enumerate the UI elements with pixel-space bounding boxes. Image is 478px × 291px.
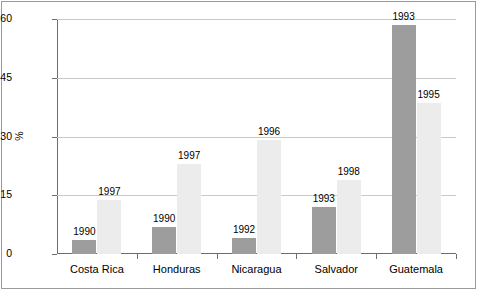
y-axis-tick-label: 15 xyxy=(0,189,12,200)
y-axis-tick-label: 60 xyxy=(0,13,12,24)
bar-value-label: 1997 xyxy=(89,187,129,197)
bar xyxy=(72,240,96,254)
y-axis-tick-label: 30 xyxy=(0,131,12,142)
bar-value-label: 1993 xyxy=(384,12,424,22)
y-axis-tick-label: 0 xyxy=(0,248,12,259)
bar xyxy=(312,207,336,254)
plot-area: 1990199719901997199219961993199819931995 xyxy=(57,19,456,254)
x-axis-tick-mark xyxy=(217,254,218,259)
bar-value-label: 1996 xyxy=(249,127,289,137)
x-axis-tick-mark xyxy=(137,254,138,259)
bar-value-label: 1997 xyxy=(169,151,209,161)
y-axis-title: % xyxy=(13,131,25,140)
y-axis-tick-label: 45 xyxy=(0,72,12,83)
bar xyxy=(417,103,441,254)
bar xyxy=(337,180,361,254)
x-axis-tick-mark xyxy=(456,254,457,259)
bar-value-label: 1998 xyxy=(329,167,369,177)
bar xyxy=(177,164,201,254)
x-axis-tick-mark xyxy=(296,254,297,259)
bar xyxy=(152,227,176,254)
x-axis-tick-mark xyxy=(376,254,377,259)
bar xyxy=(97,200,121,254)
x-axis-category-label: Guatemala xyxy=(376,263,456,275)
x-axis-category-label: Costa Rica xyxy=(57,263,137,275)
bar xyxy=(392,25,416,254)
bar xyxy=(232,238,256,254)
chart-figure: % 015304560 1990199719901997199219961993… xyxy=(0,0,478,291)
x-axis-category-label: Salvador xyxy=(296,263,376,275)
bar xyxy=(257,140,281,254)
bar-value-label: 1995 xyxy=(409,90,449,100)
x-axis-category-label: Nicaragua xyxy=(217,263,297,275)
y-axis-tick-mark xyxy=(52,254,57,255)
x-axis-category-label: Honduras xyxy=(137,263,217,275)
